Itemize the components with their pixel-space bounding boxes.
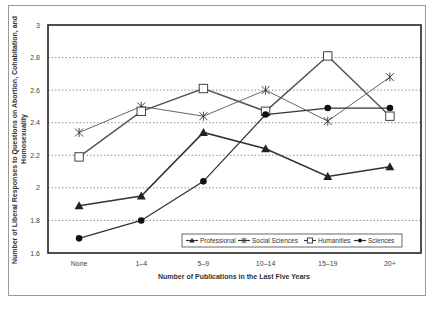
y-tick-label: 2.6 [30, 87, 40, 94]
x-tick-label: None [71, 260, 88, 267]
y-tick-label: 2 [36, 184, 40, 191]
x-tick-label: 20+ [384, 260, 396, 267]
circle-marker [200, 178, 207, 185]
y-axis-title-line-2: Homosexuality [20, 114, 28, 164]
square-marker [75, 153, 83, 161]
y-axis-title-line-1: Number of Liberal Responses to Questions… [11, 16, 19, 264]
legend-label: Humanities [318, 237, 351, 244]
circle-marker [358, 239, 362, 243]
legend-label: Social Sciences [252, 237, 299, 244]
asterisk-marker [324, 117, 332, 126]
y-tick-label: 2.4 [30, 119, 40, 126]
legend-label: Sciences [368, 237, 395, 244]
series-humanities [75, 52, 394, 161]
triangle-marker [199, 128, 208, 136]
circle-marker [324, 105, 331, 112]
square-marker [137, 107, 145, 115]
y-tick-label: 1.8 [30, 217, 40, 224]
x-tick-label: 15–19 [318, 260, 338, 267]
square-marker [199, 84, 207, 92]
x-tick-label: 1–4 [135, 260, 147, 267]
square-marker [386, 112, 394, 120]
asterisk-marker [75, 128, 83, 137]
series-professional [75, 128, 395, 209]
circle-marker [387, 105, 394, 112]
series-line [79, 132, 390, 205]
x-axis-ticks: None1–45–910–1415–1920+ [71, 260, 396, 267]
x-tick-label: 5–9 [198, 260, 210, 267]
series-line [79, 56, 390, 157]
series-social-sciences [75, 73, 394, 137]
triangle-marker [385, 162, 394, 170]
legend: ProfessionalSocial SciencesHumanitiesSci… [182, 234, 402, 247]
series-line [79, 77, 390, 132]
square-marker [307, 238, 312, 243]
legend-label: Professional [200, 237, 236, 244]
circle-marker [262, 111, 269, 118]
data-series [75, 52, 395, 242]
x-tick-label: 10–14 [256, 260, 276, 267]
line-chart: 1.61.822.22.42.62.83 None1–45–910–1415–1… [0, 0, 435, 312]
asterisk-marker [386, 73, 394, 82]
square-marker [324, 52, 332, 60]
x-axis-title: Number of Publications in the Last Five … [158, 273, 310, 280]
y-tick-label: 1.6 [30, 250, 40, 257]
series-line [79, 108, 390, 238]
y-tick-label: 3 [36, 22, 40, 29]
y-axis-title: Number of Liberal Responses to Questions… [11, 14, 28, 264]
y-tick-label: 2.2 [30, 152, 40, 159]
circle-marker [76, 235, 83, 242]
y-tick-label: 2.8 [30, 54, 40, 61]
legend-item-humanities: Humanities [304, 237, 351, 244]
y-axis-ticks: 1.61.822.22.42.62.83 [30, 22, 40, 257]
circle-marker [138, 217, 145, 224]
